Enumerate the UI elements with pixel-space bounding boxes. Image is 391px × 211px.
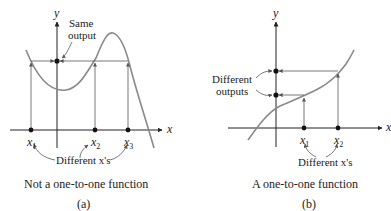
same-output-label-line2: output — [68, 30, 96, 41]
y-axis-label-a: y — [54, 7, 59, 19]
different-xs-label-a: Different x's — [56, 155, 111, 166]
function-curve — [26, 33, 154, 148]
diff-output-arrow-upper — [256, 71, 272, 78]
panel-letter-b: (b) — [302, 198, 316, 210]
point-x2 — [336, 126, 341, 131]
caption-b: A one-to-one function — [252, 178, 358, 190]
x-axis-label-b: x — [386, 121, 391, 133]
same-output-callout-arrow — [62, 42, 72, 58]
diff-output-arrow-lower — [256, 90, 272, 95]
point-x2 — [93, 128, 98, 133]
diff-x-arrow-1 — [34, 144, 55, 160]
different-xs-label-b: Different x's — [298, 157, 353, 168]
point-x1 — [302, 126, 307, 131]
x1-label-a: x1 — [27, 136, 36, 151]
different-outputs-label-line2: outputs — [216, 86, 248, 97]
caption-a: Not a one-to-one function — [24, 178, 148, 190]
y-axis-label-b: y — [273, 7, 278, 19]
point-x1 — [29, 128, 34, 133]
x3-label-a: x3 — [124, 136, 133, 151]
x2-label-a: x2 — [91, 136, 100, 151]
panel-letter-a: (a) — [77, 198, 90, 210]
x1-label-b: x1 — [300, 134, 309, 149]
same-output-point — [54, 58, 59, 63]
output-point-lower — [273, 92, 278, 97]
different-outputs-label-line1: Different — [212, 74, 252, 85]
output-point-upper — [273, 68, 278, 73]
x-axis-label-a: x — [167, 123, 172, 135]
x2-label-b: x2 — [334, 134, 343, 149]
same-output-label-line1: Same — [69, 18, 93, 29]
point-x3 — [126, 128, 131, 133]
